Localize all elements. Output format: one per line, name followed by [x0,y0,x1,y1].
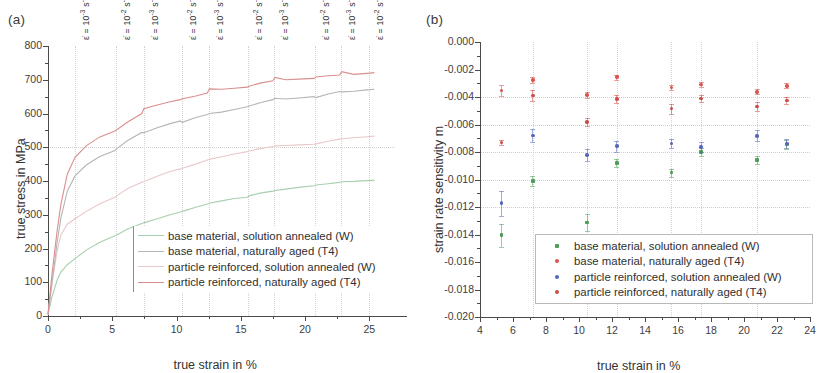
panel-b-y-tick [475,70,480,71]
panel-b-y-tick [475,97,480,98]
legend-row: base material, solution annealed (W) [540,238,808,254]
panel-b-x-minor-tick [629,317,630,320]
panel-b-x-minor-tick [761,317,762,320]
data-point [500,233,504,237]
legend-line-swatch [138,251,164,252]
legend-line-swatch [138,266,164,267]
error-bar-cap [755,141,760,142]
error-bar-cap [784,148,789,149]
panel-b-y-axis-line [480,42,481,317]
legend-row: particle reinforced, solution annealed (… [540,269,808,285]
error-bar-cap [614,141,619,142]
panel-b-x-tick-label: 8 [531,324,561,336]
panel-b-y-minor-tick [477,166,480,167]
panel-b-y-minor-tick [477,111,480,112]
panel-b-x-tick-label: 12 [597,324,627,336]
legend-label: particle reinforced, naturally aged (T4) [574,286,766,298]
error-bar-cap [669,148,674,149]
error-bar-cap [755,94,760,95]
panel-b-y-minor-tick [477,83,480,84]
legend-label: particle reinforced, solution annealed (… [168,261,376,273]
panel-b-y-minor-tick [477,276,480,277]
panel-b-x-tick [744,317,745,322]
strain-rate-annotation: ε̇ = 10-2 s-1 [373,0,385,40]
data-point [615,144,619,148]
data-point [785,99,789,103]
data-point [670,142,674,146]
legend-row: particle reinforced, naturally aged (T4) [134,275,384,291]
panel-b-y-minor-tick [477,303,480,304]
data-point [615,97,619,101]
panel-b-x-tick-label: 10 [564,324,594,336]
panel-b-y-tick-label: -0.016 [424,255,474,267]
panel-b-x-axis-title: true strain in % [597,359,680,373]
panel-b-y-tick [475,235,480,236]
strain-rate-annotation: ε̇ = 10-3 s-1 [278,0,290,40]
error-bar-cap [699,152,704,153]
legend-key [540,275,574,279]
legend-label: particle reinforced, solution annealed (… [574,271,782,283]
data-point [500,141,504,145]
legend-marker-swatch [555,244,559,248]
panel-b-y-tick-label: -0.004 [424,90,474,102]
panel-b-x-minor-tick [596,317,597,320]
panel-b-y-tick [475,152,480,153]
legend-row: base material, solution annealed (W) [134,228,384,244]
panel-b-y-tick [475,207,480,208]
panel-b-y-axis-title: strain rate sensitivity m [432,125,446,252]
panel-b-y-tick-label: -0.018 [424,283,474,295]
error-bar-cap [614,152,619,153]
legend-marker-swatch [555,275,559,279]
legend-key [134,266,168,267]
panel-b-y-minor-tick [477,221,480,222]
panel-b-y-minor-tick [477,248,480,249]
panel-b-y-minor-tick [477,138,480,139]
error-bar-cap [530,129,535,130]
error-bar-cap [784,139,789,140]
panel-b-x-tick [810,317,811,322]
panel-b-plot-area: 0.000-0.002-0.004-0.006-0.008-0.010-0.01… [418,0,836,360]
data-point [670,171,674,175]
data-point [585,153,589,157]
panel-b-x-tick-label: 18 [696,324,726,336]
panel-b-y-tick [475,262,480,263]
legend-key [540,259,574,263]
error-bar-cap [669,139,674,140]
data-point [585,93,589,97]
legend-label: particle reinforced, naturally aged (T4) [168,276,360,288]
legend-key [134,251,168,252]
error-bar-cap [699,87,704,88]
panel-b-x-tick [777,317,778,322]
legend-label: base material, solution annealed (W) [168,230,354,242]
panel-b-legend: base material, solution annealed (W)base… [535,234,813,304]
error-bar-cap [585,98,590,99]
error-bar-cap [585,126,590,127]
legend-row: base material, naturally aged (T4) [540,254,808,270]
panel-b-x-minor-tick [728,317,729,320]
panel-b-x-minor-tick [794,317,795,320]
data-point [531,94,535,98]
legend-row: base material, naturally aged (T4) [134,244,384,260]
data-point [755,158,759,162]
data-point [755,90,759,94]
data-point [699,97,703,101]
error-bar-cap [669,90,674,91]
error-bar-cap [530,90,535,91]
error-bar-cap [669,104,674,105]
error-bar-cap [755,102,760,103]
panel-b-x-tick [711,317,712,322]
error-bar-cap [614,159,619,160]
error-bar-cap [499,85,504,86]
data-point [585,221,589,225]
strain-rate-annotation: ε̇ = 10-2 s-1 [186,0,198,40]
error-bar-cap [699,102,704,103]
panel-b-x-tick [480,317,481,322]
panel-b-gridline [480,207,810,208]
panel-b-gridline [480,152,810,153]
panel-a-plot-area: 01002003004005006007008000510152025ε̇ = … [0,0,418,360]
panel-b-x-tick [645,317,646,322]
error-bar-cap [614,103,619,104]
panel-a: (a) 01002003004005006007008000510152025ε… [0,0,418,360]
strain-rate-annotation: ε̇ = 10-3 s-1 [79,0,91,40]
